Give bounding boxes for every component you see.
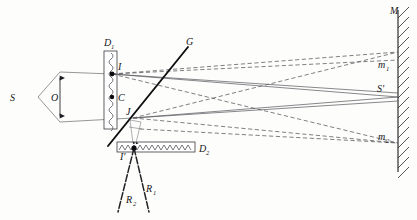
dashed-ray-bundle bbox=[112, 52, 398, 143]
label-ray-r1-subscript: 1 bbox=[153, 189, 156, 196]
label-mirror-point-m2: m bbox=[378, 131, 385, 142]
label-mirror-point-m2-subscript: 2 bbox=[386, 137, 390, 144]
label-ray-r2-subscript: 2 bbox=[133, 200, 137, 207]
label-image-s-prime: S' bbox=[377, 83, 385, 94]
label-mirror-point-m1: m bbox=[378, 59, 385, 70]
label-plate-d1-subscript: 1 bbox=[111, 43, 114, 50]
diffraction-plate-d1 bbox=[104, 51, 117, 131]
label-object-o: O bbox=[51, 92, 58, 103]
mirror-m bbox=[398, 7, 409, 178]
label-mirror-point-m1-subscript: 1 bbox=[386, 65, 389, 72]
label-source-s: S bbox=[10, 92, 15, 103]
label-plate-d2-subscript: 2 bbox=[206, 149, 210, 156]
dot-point-i bbox=[110, 72, 115, 77]
diagram-labels: S O D 1 I C J G I' D 2 M m 1 S' m 2 R 1 … bbox=[10, 5, 399, 207]
label-point-i-prime: I' bbox=[119, 151, 126, 162]
dot-point-i-prime bbox=[131, 145, 136, 150]
solid-ray-bundle bbox=[112, 74, 398, 118]
label-point-j: J bbox=[126, 106, 131, 117]
label-ray-r1: R bbox=[145, 183, 152, 194]
optics-diagram-figure: S O D 1 I C J G I' D 2 M m 1 S' m 2 R 1 … bbox=[0, 0, 417, 220]
internal-guide-arrows bbox=[129, 120, 142, 143]
diagram-canvas: S O D 1 I C J G I' D 2 M m 1 S' m 2 R 1 … bbox=[0, 0, 417, 220]
dot-point-c bbox=[110, 95, 114, 99]
label-point-c: C bbox=[118, 92, 125, 103]
mirror-hatching bbox=[398, 7, 409, 178]
label-point-i: I bbox=[117, 61, 122, 72]
label-mirror-m: M bbox=[389, 5, 399, 16]
label-ray-r2: R bbox=[125, 194, 132, 205]
label-grating-g: G bbox=[186, 36, 193, 47]
diffraction-plate-d2 bbox=[117, 142, 195, 152]
